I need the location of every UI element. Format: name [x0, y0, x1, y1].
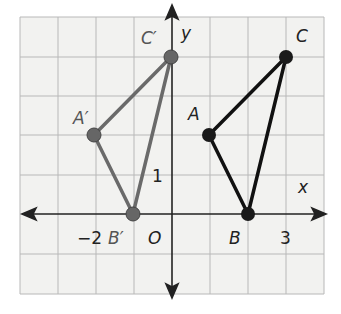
label-a-prime: A′ — [72, 108, 89, 128]
tick-label-neg2: −2 — [77, 228, 102, 248]
label-c: C — [296, 26, 308, 46]
tick-label-3: 3 — [280, 228, 291, 248]
label-a: A — [187, 104, 200, 124]
vertex-a — [202, 128, 216, 142]
vertex-b-prime — [126, 207, 140, 221]
vertex-c — [279, 50, 293, 64]
y-axis-label: y — [180, 23, 192, 43]
vertex-b — [241, 207, 255, 221]
label-b-prime: B′ — [108, 228, 124, 248]
x-axis-label: x — [297, 177, 309, 197]
vertex-c-prime — [164, 50, 178, 64]
label-c-prime: C′ — [141, 28, 157, 48]
vertex-a-prime — [87, 128, 101, 142]
coordinate-plane: y x O −2 3 1 C′ A′ B′ C A B — [0, 0, 341, 314]
label-b: B — [229, 228, 241, 248]
tick-label-1: 1 — [152, 166, 163, 186]
origin-label: O — [148, 228, 161, 248]
